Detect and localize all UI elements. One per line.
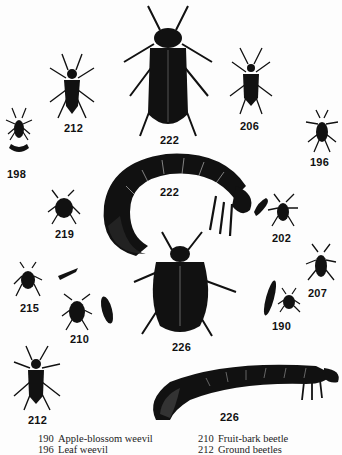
figure-label: 226 (220, 411, 239, 423)
weevil-icon (304, 242, 338, 286)
large-beetle-icon (118, 4, 218, 139)
weevil-icon (226, 46, 276, 120)
caption-left: 190Apple-blossom weevil 196Leaf weevil (38, 433, 153, 455)
weevil-icon (304, 108, 340, 154)
figure-label: 202 (272, 232, 291, 244)
caption-row: 196Leaf weevil (38, 444, 153, 455)
caption-row: 190Apple-blossom weevil (38, 433, 153, 444)
figure-label: 198 (7, 168, 26, 180)
beetle-icon (46, 188, 82, 228)
figure-label: 226 (172, 341, 191, 353)
insect-plate: 198 212 222 206 196 (0, 0, 342, 455)
caption-right: 210Fruit-bark beetle 212Ground beetles (198, 433, 288, 455)
weevil-icon (4, 104, 34, 164)
ground-beetle-icon (44, 50, 100, 122)
figure-label: 222 (160, 186, 179, 198)
figure-label: 212 (64, 122, 83, 134)
figure-label: 215 (20, 302, 39, 314)
figure-label: 207 (308, 287, 327, 299)
caption-row: 210Fruit-bark beetle (198, 433, 288, 444)
figure-label: 206 (240, 120, 259, 132)
grub-larva-icon (146, 360, 342, 424)
figure-label: 222 (160, 134, 179, 146)
fruit-bark-beetle-icon (60, 292, 120, 332)
figure-label: 210 (70, 333, 89, 345)
weevil-with-larva-icon (252, 192, 302, 228)
figure-label: 190 (272, 320, 291, 332)
figure-label: 196 (310, 156, 329, 168)
ground-beetle-icon (10, 344, 64, 414)
figure-label: 212 (28, 414, 47, 426)
large-beetle-icon (128, 230, 238, 340)
caption-row: 212Ground beetles (198, 444, 288, 455)
figure-label: 219 (55, 228, 74, 240)
apple-blossom-weevil-icon (262, 276, 302, 324)
